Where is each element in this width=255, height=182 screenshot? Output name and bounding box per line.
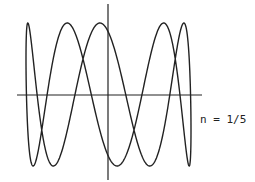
- n-value-annotation: n = 1/5: [200, 113, 246, 126]
- plot-area: [0, 0, 255, 182]
